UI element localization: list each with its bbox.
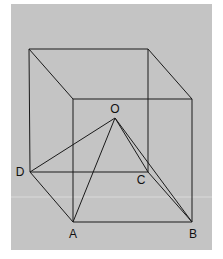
edge-top-right-depth: [148, 49, 192, 99]
edge-OA: [73, 118, 115, 222]
edge-CB: [148, 172, 192, 222]
edge-OB: [115, 118, 192, 222]
label-D: D: [16, 165, 25, 179]
label-O: O: [110, 102, 119, 116]
edge-OC: [115, 118, 148, 172]
edge-top-left-depth: [29, 49, 73, 99]
edge-DA: [30, 172, 73, 222]
cube-pyramid-diagram: O D C A B: [0, 0, 223, 259]
edge-back-left: [29, 49, 30, 172]
label-A: A: [69, 227, 77, 241]
label-C: C: [137, 173, 146, 187]
label-B: B: [189, 227, 197, 241]
